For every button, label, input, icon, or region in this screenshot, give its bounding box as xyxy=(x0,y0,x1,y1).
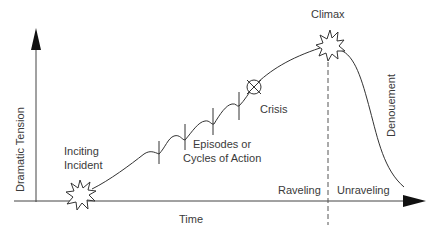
diagram-canvas xyxy=(0,0,444,235)
y-axis-label: Dramatic Tension xyxy=(14,107,27,192)
inciting-incident-starburst-icon xyxy=(66,180,96,210)
crisis-label: Crisis xyxy=(260,103,288,116)
episodes-label-line2: Cycles of Action xyxy=(183,152,261,165)
denouement-label: Denouement xyxy=(385,74,398,137)
unraveling-label: Unraveling xyxy=(337,184,390,197)
x-axis-label: Time xyxy=(179,213,203,226)
raveling-label: Raveling xyxy=(278,184,321,197)
tension-curve xyxy=(92,48,320,189)
crisis-marker-icon xyxy=(247,80,261,94)
climax-starburst-icon xyxy=(316,30,345,61)
inciting-incident-label-line1: Inciting xyxy=(64,145,99,158)
y-axis-arrowhead xyxy=(31,28,41,50)
climax-label: Climax xyxy=(311,8,345,21)
x-axis-arrowhead xyxy=(403,195,426,207)
episodes-label-line1: Episodes or xyxy=(193,138,251,151)
inciting-incident-label-line2: Incident xyxy=(64,159,103,172)
